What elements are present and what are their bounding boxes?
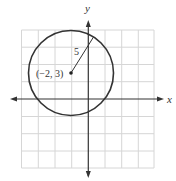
- radius-label: 5: [74, 46, 79, 57]
- circle-graph-figure: x y (−2, 3) 5: [0, 0, 176, 181]
- x-axis-right-arrow-icon: [157, 97, 164, 102]
- x-axis-left-arrow-icon: [10, 97, 17, 102]
- x-axis: [10, 97, 164, 102]
- x-axis-label: x: [166, 93, 172, 105]
- y-axis-bottom-arrow-icon: [86, 171, 91, 178]
- center-point: [69, 71, 73, 75]
- y-axis-label: y: [84, 2, 90, 14]
- center-label: (−2, 3): [36, 68, 63, 80]
- y-axis-top-arrow-icon: [86, 20, 91, 27]
